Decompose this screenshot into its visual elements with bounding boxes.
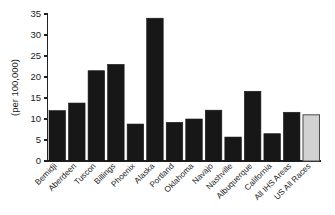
y-tick-label: 15 bbox=[30, 92, 41, 103]
bar-chart-figure: 05101520253035 BemidjiAberdeenTusconBill… bbox=[0, 0, 335, 215]
bar bbox=[166, 122, 183, 161]
y-axis-title: (per 100,000) bbox=[9, 59, 20, 116]
y-tick-label: 10 bbox=[30, 113, 41, 124]
bars-group bbox=[49, 18, 319, 161]
bar bbox=[108, 64, 125, 161]
bar bbox=[283, 112, 300, 161]
bar bbox=[88, 71, 105, 161]
bar bbox=[244, 91, 261, 161]
y-tick-label: 5 bbox=[36, 134, 41, 145]
chart-canvas: 05101520253035 BemidjiAberdeenTusconBill… bbox=[0, 0, 335, 215]
y-tick-labels: 05101520253035 bbox=[30, 8, 41, 166]
bar bbox=[69, 103, 86, 161]
bar bbox=[303, 115, 320, 161]
bar bbox=[186, 119, 203, 161]
y-tick-label: 0 bbox=[36, 155, 41, 166]
bar bbox=[49, 111, 66, 161]
bar bbox=[205, 110, 222, 161]
y-tick-label: 30 bbox=[30, 29, 41, 40]
bar bbox=[127, 124, 144, 161]
y-axis-group: 05101520253035 bbox=[30, 8, 47, 166]
y-tick-label: 25 bbox=[30, 50, 41, 61]
bar bbox=[264, 134, 281, 161]
y-tick-label: 20 bbox=[30, 71, 41, 82]
y-tick-label: 35 bbox=[30, 8, 41, 19]
category-labels-group: BemidjiAberdeenTusconBillingsPhoenixAlas… bbox=[33, 161, 312, 202]
bar bbox=[147, 18, 164, 161]
y-axis-title-group: (per 100,000) bbox=[9, 59, 20, 116]
bar bbox=[225, 137, 242, 161]
